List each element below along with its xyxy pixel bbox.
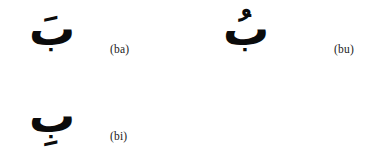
transliteration-label-bi: (bi) xyxy=(110,130,127,142)
vowel-entry-bi: بِ (bi) xyxy=(0,79,194,158)
arabic-glyph-bu: بُ xyxy=(194,6,298,52)
arabic-vowel-chart: بَ (ba) بُ (bu) بِ (bi) xyxy=(0,0,388,158)
arabic-glyph-ba: بَ xyxy=(0,6,104,52)
vowel-entry-ba: بَ (ba) xyxy=(0,0,194,79)
glyph-box-bu: بُ xyxy=(194,0,298,79)
glyph-box-ba: بَ xyxy=(0,0,104,79)
transliteration-label-bu: (bu) xyxy=(334,43,354,55)
arabic-glyph-bi: بِ xyxy=(0,93,104,139)
vowel-entry-bu: بُ (bu) xyxy=(194,0,388,79)
empty-cell xyxy=(194,79,388,158)
glyph-box-bi: بِ xyxy=(0,79,104,158)
transliteration-label-ba: (ba) xyxy=(110,43,129,55)
